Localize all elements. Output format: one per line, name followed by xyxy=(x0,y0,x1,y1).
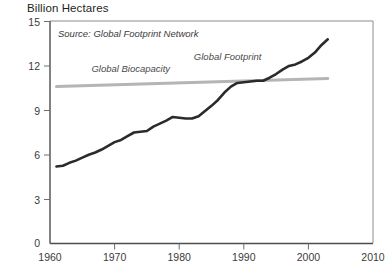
y-tick-label-6: 6 xyxy=(34,149,40,161)
series-label-global-biocapacity: Global Biocapacity xyxy=(91,63,171,74)
x-tick-label-1980: 1980 xyxy=(168,251,192,263)
x-tick-label-2010: 2010 xyxy=(361,251,385,263)
series-line-global-footprint xyxy=(56,39,327,166)
y-tick-label-3: 3 xyxy=(34,194,40,206)
y-tick-label-0: 0 xyxy=(34,237,40,249)
x-tick-label-1960: 1960 xyxy=(38,251,62,263)
y-tick-label-9: 9 xyxy=(34,105,40,117)
line-chart: 15 12 9 6 3 0 1960 1970 1980 1990 2000 2… xyxy=(0,0,390,274)
source-note: Source: Global Footprint Network xyxy=(58,28,200,39)
x-tick-label-2000: 2000 xyxy=(297,251,321,263)
series-line-global-biocapacity xyxy=(56,78,327,86)
x-tick-label-1970: 1970 xyxy=(103,251,127,263)
series-label-global-footprint: Global Footprint xyxy=(194,51,262,62)
chart-screen: Billion Hectares 15 12 9 6 3 0 1960 1 xyxy=(0,0,390,274)
y-tick-label-15: 15 xyxy=(28,16,40,28)
x-axis-ticks xyxy=(115,244,309,250)
y-tick-label-12: 12 xyxy=(28,60,40,72)
x-tick-label-1990: 1990 xyxy=(232,251,256,263)
y-axis-ticks xyxy=(44,22,50,200)
